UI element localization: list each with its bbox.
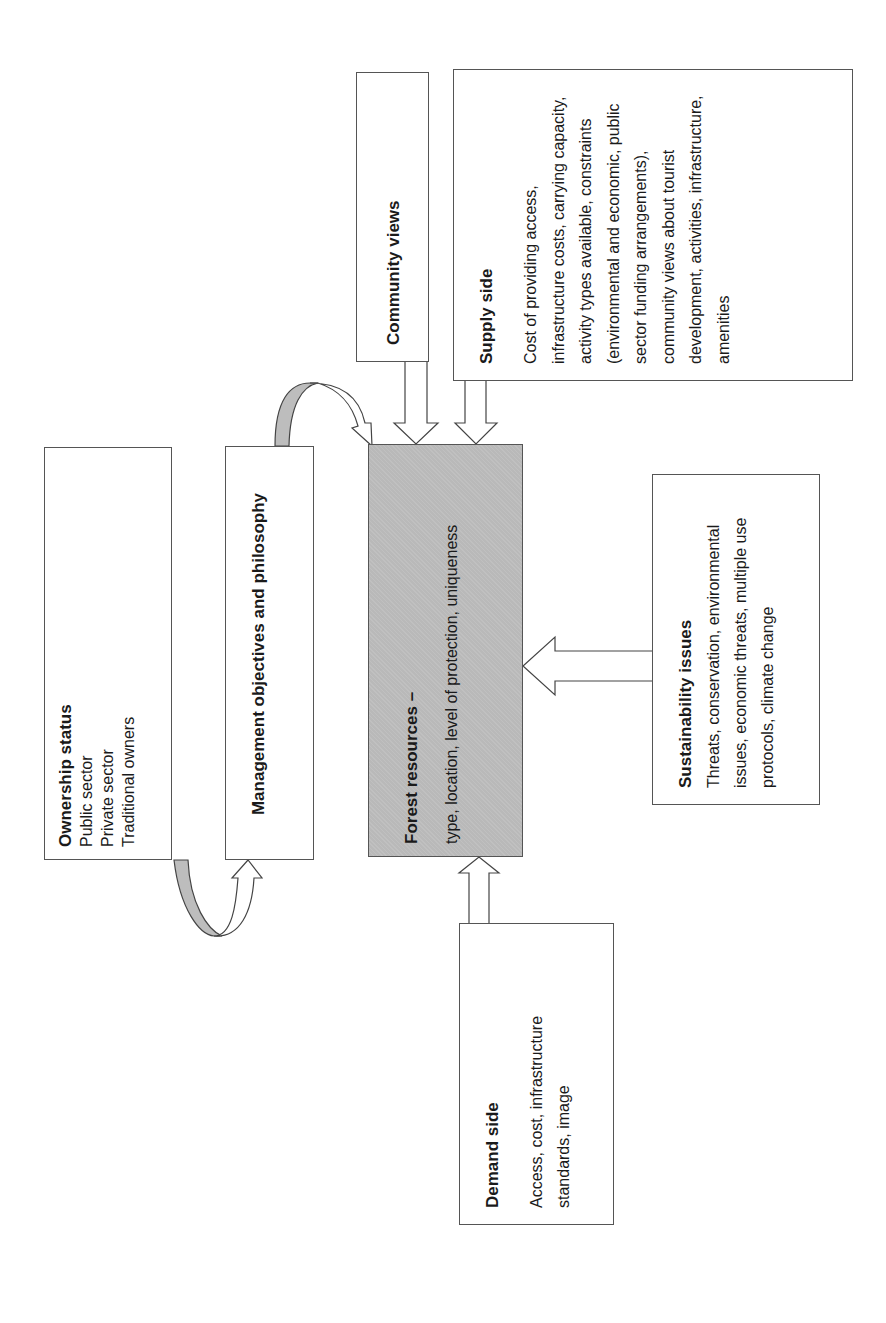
block-arrow-supply-to-forest [455, 381, 497, 444]
forest-resources-box: Forest resources – type, location, level… [368, 444, 523, 857]
supply-side-box: Supply side Cost of providing access, in… [453, 69, 853, 381]
community-views-box: Community views [356, 72, 429, 362]
demand-side-box: Demand side Access, cost, infrastructure… [459, 923, 614, 1225]
management-objectives-box: Management objectives and philosophy [225, 446, 314, 860]
curved-arrow-ownership-to-management [174, 860, 262, 936]
demand-side-title: Demand side [482, 942, 503, 1208]
block-arrow-community-to-forest [394, 362, 438, 444]
sustainability-issues-body: Threats, conservation, environmental iss… [700, 493, 781, 788]
curved-arrow-management-to-forest [275, 383, 372, 446]
ownership-status-title: Ownership status [55, 462, 76, 847]
ownership-item-traditional: Traditional owners [118, 462, 139, 847]
block-arrow-demand-to-forest [459, 857, 499, 923]
block-arrow-sustainability-to-forest [523, 637, 652, 695]
community-views-title: Community views [383, 91, 404, 345]
demand-side-body: Access, cost, infrastructure standards, … [523, 942, 577, 1208]
ownership-item-public: Public sector [76, 462, 97, 847]
sustainability-issues-box: Sustainability issues Threats, conservat… [652, 474, 820, 805]
ownership-status-box: Ownership status Public sector Private s… [44, 447, 172, 860]
supply-side-body: Cost of providing access, infrastructure… [517, 88, 737, 364]
sustainability-issues-title: Sustainability issues [675, 493, 696, 788]
ownership-item-private: Private sector [97, 462, 118, 847]
supply-side-title: Supply side [476, 88, 497, 364]
forest-resources-body: type, location, level of protection, uni… [440, 459, 464, 844]
management-objectives-title: Management objectives and philosophy [248, 461, 269, 847]
forest-resources-title: Forest resources – [401, 459, 422, 844]
